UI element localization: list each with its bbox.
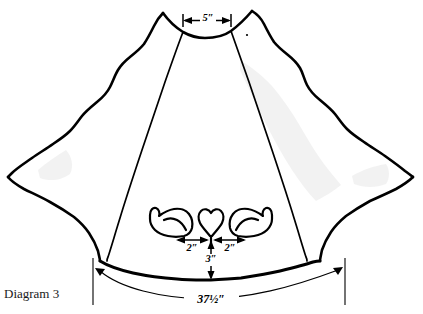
right-offset-label: 2″: [223, 242, 235, 253]
hem-height-label: 3″: [204, 253, 216, 264]
diagram-page: 5″ 2″: [0, 0, 423, 314]
fabric-mark-dot: [246, 34, 248, 36]
neck-dim-arrowhead-right: [222, 17, 231, 24]
diagram-caption: Diagram 3: [4, 286, 59, 302]
cape-pattern-diagram: 5″ 2″: [0, 0, 423, 314]
dimension-neck-width: 5″: [183, 12, 231, 27]
hem-width-label: 37½″: [196, 292, 225, 306]
left-offset-label: 2″: [185, 242, 197, 253]
neck-dim-arrowhead-left: [183, 17, 192, 24]
hem-width-arrowhead-left: [95, 268, 105, 276]
neck-dim-label: 5″: [202, 12, 213, 23]
